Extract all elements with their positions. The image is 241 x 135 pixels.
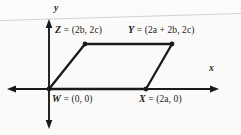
- vertex-coords-y: = (2a + 2b, 2c): [134, 25, 194, 35]
- vertex-label-z: Z = (2b, 2c): [55, 25, 102, 36]
- vertex-coords-w: = (0, 0): [61, 94, 93, 104]
- geometry-figure: Z = (2b, 2c) Y = (2a + 2b, 2c) W = (0, 0…: [0, 0, 241, 135]
- y-axis-label: y: [54, 4, 58, 14]
- vertex-label-y: Y = (2a + 2b, 2c): [128, 25, 195, 36]
- vertex-label-x: X = (2a, 0): [139, 94, 182, 105]
- vertex-dot-y: [170, 42, 175, 47]
- vertex-name-x: X: [139, 93, 146, 104]
- vertex-coords-x: = (2a, 0): [146, 94, 182, 104]
- vertex-dot-w: [47, 87, 52, 92]
- figure-canvas: [0, 0, 241, 135]
- vertex-label-w: W = (0, 0): [52, 94, 93, 105]
- vertex-name-w: W: [52, 93, 61, 104]
- page-tint: [0, 21, 241, 135]
- scan-artifact-line: [0, 14, 241, 21]
- vertex-dot-x: [144, 87, 149, 92]
- x-axis-label: x: [209, 64, 214, 74]
- vertex-coords-z: = (2b, 2c): [61, 25, 102, 35]
- vertex-dot-z: [83, 42, 88, 47]
